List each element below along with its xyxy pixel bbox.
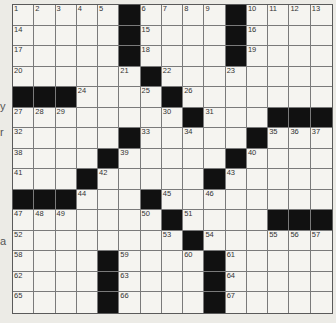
grid-cell[interactable]: 3 (56, 5, 77, 26)
grid-cell[interactable]: 14 (13, 26, 34, 47)
grid-cell[interactable] (98, 46, 119, 67)
grid-cell[interactable]: 2 (34, 5, 55, 26)
grid-cell[interactable] (77, 108, 98, 129)
grid-cell[interactable] (247, 292, 268, 313)
grid-cell[interactable] (311, 251, 332, 272)
grid-cell[interactable] (119, 190, 140, 211)
grid-cell[interactable] (268, 251, 289, 272)
grid-cell[interactable] (77, 231, 98, 252)
grid-cell[interactable] (162, 292, 183, 313)
grid-cell[interactable] (56, 231, 77, 252)
grid-cell[interactable]: 29 (56, 108, 77, 129)
grid-cell[interactable] (289, 87, 310, 108)
grid-cell[interactable] (77, 292, 98, 313)
grid-cell[interactable]: 52 (13, 231, 34, 252)
grid-cell[interactable]: 39 (119, 149, 140, 170)
grid-cell[interactable] (34, 46, 55, 67)
grid-cell[interactable]: 65 (13, 292, 34, 313)
grid-cell[interactable] (34, 292, 55, 313)
grid-cell[interactable] (183, 292, 204, 313)
grid-cell[interactable] (289, 251, 310, 272)
grid-cell[interactable] (289, 67, 310, 88)
grid-cell[interactable]: 26 (183, 87, 204, 108)
grid-cell[interactable] (311, 292, 332, 313)
grid-cell[interactable] (56, 67, 77, 88)
grid-cell[interactable] (56, 128, 77, 149)
grid-cell[interactable] (119, 87, 140, 108)
grid-cell[interactable] (119, 231, 140, 252)
grid-cell[interactable] (204, 67, 225, 88)
grid-cell[interactable] (34, 26, 55, 47)
grid-cell[interactable]: 43 (226, 169, 247, 190)
grid-cell[interactable] (34, 128, 55, 149)
grid-cell[interactable] (226, 231, 247, 252)
grid-cell[interactable] (268, 149, 289, 170)
grid-cell[interactable]: 62 (13, 272, 34, 293)
grid-cell[interactable] (311, 87, 332, 108)
grid-cell[interactable]: 19 (247, 46, 268, 67)
grid-cell[interactable] (162, 26, 183, 47)
grid-cell[interactable]: 45 (162, 190, 183, 211)
grid-cell[interactable] (268, 190, 289, 211)
grid-cell[interactable] (119, 108, 140, 129)
grid-cell[interactable]: 57 (311, 231, 332, 252)
grid-cell[interactable] (183, 26, 204, 47)
grid-cell[interactable]: 12 (289, 5, 310, 26)
grid-cell[interactable] (77, 67, 98, 88)
grid-cell[interactable] (183, 149, 204, 170)
grid-cell[interactable] (311, 67, 332, 88)
grid-cell[interactable]: 11 (268, 5, 289, 26)
grid-cell[interactable]: 10 (247, 5, 268, 26)
grid-cell[interactable] (268, 46, 289, 67)
grid-cell[interactable] (204, 210, 225, 231)
grid-cell[interactable]: 56 (289, 231, 310, 252)
grid-cell[interactable]: 22 (162, 67, 183, 88)
grid-cell[interactable]: 27 (13, 108, 34, 129)
grid-cell[interactable]: 38 (13, 149, 34, 170)
grid-cell[interactable]: 34 (183, 128, 204, 149)
grid-cell[interactable]: 42 (98, 169, 119, 190)
grid-cell[interactable]: 36 (289, 128, 310, 149)
grid-cell[interactable] (34, 231, 55, 252)
grid-cell[interactable]: 64 (226, 272, 247, 293)
grid-cell[interactable]: 1 (13, 5, 34, 26)
grid-cell[interactable] (98, 231, 119, 252)
grid-cell[interactable] (289, 190, 310, 211)
grid-cell[interactable]: 4 (77, 5, 98, 26)
grid-cell[interactable] (98, 128, 119, 149)
grid-cell[interactable] (119, 169, 140, 190)
grid-cell[interactable] (183, 46, 204, 67)
grid-cell[interactable]: 15 (141, 26, 162, 47)
grid-cell[interactable] (98, 26, 119, 47)
grid-cell[interactable] (268, 67, 289, 88)
grid-cell[interactable]: 16 (247, 26, 268, 47)
grid-cell[interactable] (56, 272, 77, 293)
grid-cell[interactable] (141, 149, 162, 170)
grid-cell[interactable] (77, 210, 98, 231)
grid-cell[interactable]: 58 (13, 251, 34, 272)
grid-cell[interactable]: 63 (119, 272, 140, 293)
grid-cell[interactable]: 25 (141, 87, 162, 108)
grid-cell[interactable] (183, 190, 204, 211)
grid-cell[interactable]: 21 (119, 67, 140, 88)
grid-cell[interactable] (77, 46, 98, 67)
grid-cell[interactable] (247, 231, 268, 252)
grid-cell[interactable]: 54 (204, 231, 225, 252)
grid-cell[interactable] (289, 272, 310, 293)
grid-cell[interactable] (77, 128, 98, 149)
grid-cell[interactable] (34, 149, 55, 170)
grid-cell[interactable] (311, 272, 332, 293)
grid-cell[interactable]: 66 (119, 292, 140, 313)
grid-cell[interactable] (204, 87, 225, 108)
grid-cell[interactable] (226, 87, 247, 108)
grid-cell[interactable]: 32 (13, 128, 34, 149)
grid-cell[interactable] (289, 26, 310, 47)
grid-cell[interactable] (77, 251, 98, 272)
grid-cell[interactable]: 8 (183, 5, 204, 26)
grid-cell[interactable] (204, 46, 225, 67)
grid-cell[interactable]: 59 (119, 251, 140, 272)
grid-cell[interactable] (226, 108, 247, 129)
grid-cell[interactable] (247, 251, 268, 272)
grid-cell[interactable] (34, 67, 55, 88)
grid-cell[interactable]: 31 (204, 108, 225, 129)
